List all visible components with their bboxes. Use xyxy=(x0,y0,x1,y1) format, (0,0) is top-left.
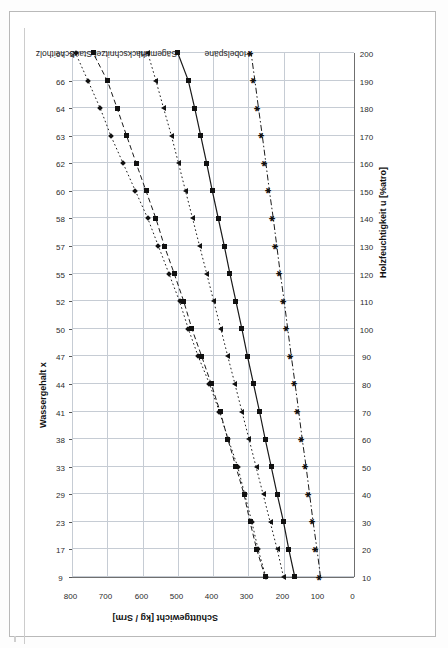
tick-mark-top xyxy=(69,191,72,192)
data-point xyxy=(115,106,120,111)
series-line-sägemehl xyxy=(178,53,295,577)
data-point xyxy=(98,106,103,111)
data-point xyxy=(144,188,149,193)
data-point xyxy=(239,409,244,414)
tick-label-bottom: 70 xyxy=(357,408,377,417)
tick-label-bottom: 160 xyxy=(357,160,377,169)
data-point xyxy=(161,106,166,111)
data-point xyxy=(292,575,297,580)
tick-label-top: 23 xyxy=(51,518,71,527)
tick-mark-top xyxy=(69,136,72,137)
tick-label-bottom: 150 xyxy=(357,187,377,196)
data-point xyxy=(281,519,286,524)
tick-label-value: 200 xyxy=(270,592,294,601)
tick-mark-top xyxy=(69,108,72,109)
tick-mark-top xyxy=(69,53,72,54)
tick-label-bottom: 180 xyxy=(357,105,377,114)
data-point xyxy=(192,106,197,111)
tick-label-bottom: 130 xyxy=(357,243,377,252)
data-point xyxy=(268,519,273,524)
tick-mark-top xyxy=(69,356,72,357)
data-point xyxy=(190,216,195,221)
data-point xyxy=(233,299,238,304)
tick-mark-top xyxy=(69,522,72,523)
data-point: ✱ xyxy=(271,216,276,221)
data-point xyxy=(269,464,274,469)
tick-mark-top xyxy=(69,384,72,385)
data-point: ✱ xyxy=(296,409,301,414)
tick-label-bottom: 50 xyxy=(357,463,377,472)
tick-label-value: 600 xyxy=(129,592,153,601)
data-point xyxy=(239,326,244,331)
data-point xyxy=(245,354,250,359)
data-point: ✱ xyxy=(282,299,287,304)
data-point xyxy=(233,464,238,469)
series-lines xyxy=(72,53,354,577)
data-point xyxy=(189,326,194,331)
data-point: ✱ xyxy=(300,437,305,442)
tick-label-value: 0 xyxy=(341,592,365,601)
tick-mark-top xyxy=(69,218,72,219)
data-point xyxy=(134,161,139,166)
tick-mark-top xyxy=(69,301,72,302)
data-point xyxy=(199,354,204,359)
tick-mark-top xyxy=(69,577,72,578)
tick-label-top: 52 xyxy=(51,298,71,307)
tick-label-bottom: 10 xyxy=(357,574,377,583)
tick-label-bottom: 20 xyxy=(357,546,377,555)
data-point xyxy=(210,188,215,193)
data-point: ✱ xyxy=(304,464,309,469)
data-point xyxy=(186,78,191,83)
tick-label-top: 64 xyxy=(51,105,71,114)
data-point xyxy=(281,575,286,580)
tick-label-bottom: 60 xyxy=(357,436,377,445)
tick-label-bottom: 110 xyxy=(357,298,377,307)
tick-label-bottom: 30 xyxy=(357,518,377,527)
tick-label-top: 67 xyxy=(51,50,71,59)
data-point xyxy=(225,437,230,442)
data-point xyxy=(156,244,161,249)
tick-label-top: 41 xyxy=(51,408,71,417)
tick-label-top: 63 xyxy=(51,132,71,141)
tick-label-top: 66 xyxy=(51,77,71,86)
value-axis-title: Schüttgewicht [kg / Srm] xyxy=(112,613,218,623)
data-point: ✱ xyxy=(293,381,298,386)
data-point xyxy=(218,409,223,414)
data-point: ✱ xyxy=(314,547,319,552)
data-point xyxy=(124,133,129,138)
plot-area: ✱✱✱✱✱✱✱✱✱✱✱✱✱✱✱✱✱✱✱✱ ScheitholzStaubHack… xyxy=(72,53,354,578)
data-point xyxy=(121,161,126,166)
data-point xyxy=(133,188,138,193)
data-point xyxy=(198,133,203,138)
tick-label-value: 700 xyxy=(94,592,118,601)
tick-label-top: 9 xyxy=(51,574,71,583)
tick-mark-top xyxy=(69,329,72,330)
data-point xyxy=(204,161,209,166)
data-point: ✱ xyxy=(285,326,290,331)
tick-mark-top xyxy=(69,549,72,550)
data-point: ✱ xyxy=(263,161,268,166)
tick-mark-top xyxy=(69,246,72,247)
tick-label-bottom: 80 xyxy=(357,380,377,389)
data-point xyxy=(275,547,280,552)
data-point xyxy=(251,381,256,386)
data-point xyxy=(222,244,227,249)
data-point xyxy=(218,326,223,331)
data-point xyxy=(261,492,266,497)
data-point: ✱ xyxy=(289,354,294,359)
data-point xyxy=(153,216,158,221)
tick-label-top: 47 xyxy=(51,353,71,362)
data-point xyxy=(263,437,268,442)
data-point xyxy=(162,244,167,249)
gridline-horizontal xyxy=(354,53,355,577)
tick-mark-top xyxy=(69,81,72,82)
data-point xyxy=(181,299,186,304)
data-point xyxy=(85,78,90,83)
data-point: ✱ xyxy=(274,244,279,249)
data-point xyxy=(263,575,268,580)
tick-label-top: 38 xyxy=(51,436,71,445)
data-point xyxy=(183,188,188,193)
tick-label-bottom: 100 xyxy=(357,325,377,334)
tick-label-top: 57 xyxy=(51,243,71,252)
tick-label-bottom: 90 xyxy=(357,353,377,362)
